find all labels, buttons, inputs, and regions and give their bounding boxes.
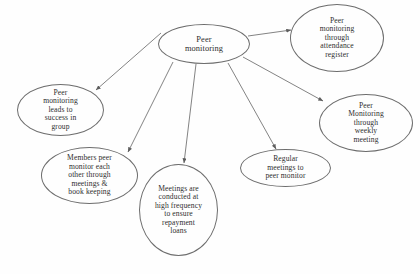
edge-to-attendance-register [248,30,291,36]
edge-to-high-frequency-meetings [184,64,196,163]
node-success-in-group-label: Peer monitoring leads to success in grou… [40,89,81,132]
edge-to-regular-meetings [228,63,276,149]
node-high-frequency-meetings[interactable]: Meetings are conducted at high frequency… [139,164,218,256]
node-peer-monitoring-label: Peer monitoring [182,35,226,54]
node-members-peer-monitor-label: Members peer monitor each other through … [64,154,115,197]
node-weekly-meeting[interactable]: Peer Monitoring through weekly meeting [319,94,413,152]
node-attendance-register[interactable]: Peer monitoring through attendance regis… [290,4,384,72]
node-peer-monitoring[interactable]: Peer monitoring [158,24,250,64]
node-members-peer-monitor[interactable]: Members peer monitor each other through … [41,147,138,204]
node-regular-meetings-label: Regular meetings to peer monitor [262,155,308,181]
node-high-frequency-meetings-label: Meetings are conducted at high frequency… [152,185,205,236]
node-success-in-group[interactable]: Peer monitoring leads to success in grou… [17,84,104,136]
node-regular-meetings[interactable]: Regular meetings to peer monitor [240,149,331,187]
edge-to-success-in-group [96,33,161,90]
node-attendance-register-label: Peer monitoring through attendance regis… [317,17,358,60]
diagram-canvas: Peer monitoring Peer monitoring through … [0,0,420,274]
node-weekly-meeting-label: Peer Monitoring through weekly meeting [345,102,387,145]
edge-to-members-peer-monitor [128,62,173,152]
